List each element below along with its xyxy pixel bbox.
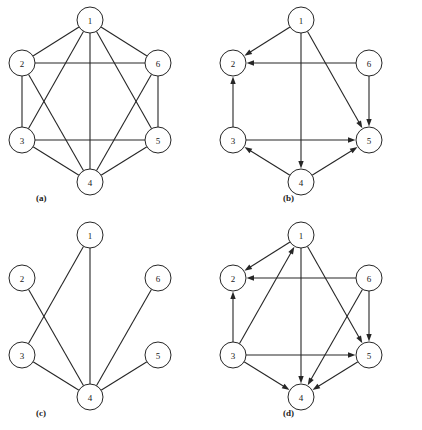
node-label: 2 [20,59,25,69]
node-6-panel-c: 6 [145,265,171,291]
node-2-panel-d: 2 [220,265,246,291]
node-6-panel-d: 6 [356,265,382,291]
node-label: 5 [156,136,161,146]
node-label: 4 [299,178,304,188]
node-2-panel-b: 2 [220,50,246,76]
node-4-panel-a: 4 [77,169,103,195]
node-label: 4 [88,178,93,188]
node-1-panel-d: 1 [288,222,314,248]
node-label: 2 [231,59,236,69]
node-5-panel-c: 5 [145,342,171,368]
node-2-panel-a: 2 [9,50,35,76]
node-label: 5 [367,136,372,146]
node-6-panel-a: 6 [145,50,171,76]
node-label: 6 [367,59,372,69]
node-label: 6 [156,59,161,69]
node-label: 5 [367,351,372,361]
node-label: 1 [299,16,304,26]
node-label: 3 [20,136,25,146]
node-4-panel-d: 4 [288,384,314,410]
node-1-panel-b: 1 [288,7,314,33]
node-label: 1 [88,16,93,26]
node-3-panel-c: 3 [9,342,35,368]
node-label: 2 [231,274,236,284]
node-3-panel-d: 3 [220,342,246,368]
node-label: 1 [88,231,93,241]
node-6-panel-b: 6 [356,50,382,76]
node-label: 4 [88,393,93,403]
node-label: 3 [20,351,25,361]
node-label: 5 [156,351,161,361]
node-4-panel-c: 4 [77,384,103,410]
node-2-panel-c: 2 [9,265,35,291]
panel-caption-b: (b) [283,193,294,203]
node-label: 3 [231,351,236,361]
node-label: 4 [299,393,304,403]
node-5-panel-a: 5 [145,127,171,153]
panel-caption-c: (c) [36,408,46,418]
node-label: 6 [156,274,161,284]
graph-figure: 123456(a)123456(b)123456(c)123456(d) [0,0,422,430]
node-5-panel-b: 5 [356,127,382,153]
node-4-panel-b: 4 [288,169,314,195]
node-5-panel-d: 5 [356,342,382,368]
node-label: 1 [299,231,304,241]
node-3-panel-b: 3 [220,127,246,153]
panel-caption-d: (d) [283,408,294,418]
node-label: 6 [367,274,372,284]
node-3-panel-a: 3 [9,127,35,153]
node-1-panel-c: 1 [77,222,103,248]
panel-caption-a: (a) [36,193,47,203]
node-label: 3 [231,136,236,146]
node-label: 2 [20,274,25,284]
node-1-panel-a: 1 [77,7,103,33]
